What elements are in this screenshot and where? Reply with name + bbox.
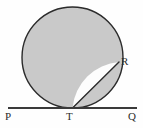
point-label-r: R — [121, 56, 128, 67]
geometry-figure: P T Q R — [0, 0, 143, 128]
point-label-t: T — [66, 111, 73, 122]
point-label-p: P — [5, 111, 11, 122]
point-label-q: Q — [128, 111, 136, 122]
